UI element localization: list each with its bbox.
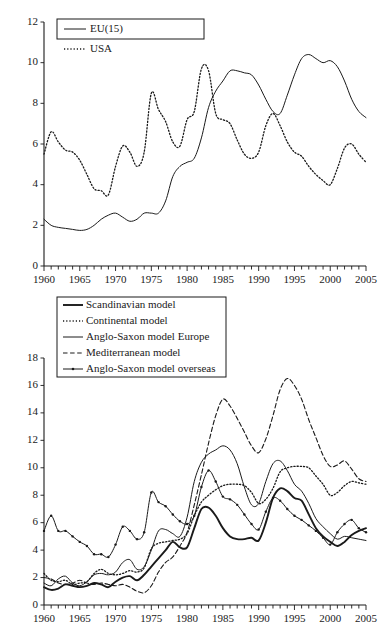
x-tick-label: 1980 (176, 273, 199, 285)
x-tick-label: 2005 (355, 273, 378, 285)
figure-container: 0246810121960196519701975198019851990199… (0, 0, 380, 629)
series-marker (93, 553, 95, 555)
series-line (44, 470, 366, 557)
x-tick-label: 1975 (140, 612, 163, 624)
x-tick-label: 1965 (69, 273, 92, 285)
chart-bottom-svg: 0246810121416181960196519701975198019851… (0, 290, 380, 629)
series-line (44, 379, 366, 593)
series-marker (286, 508, 288, 510)
x-tick-label: 1980 (176, 612, 199, 624)
legend-label: EU(15) (90, 22, 123, 35)
x-tick-label: 1965 (69, 612, 92, 624)
y-tick-label: 4 (33, 543, 39, 555)
series-marker (265, 510, 267, 512)
series-marker (222, 495, 224, 497)
series-marker (207, 469, 209, 471)
series-marker (329, 543, 331, 545)
series-marker (129, 530, 131, 532)
series-marker (107, 556, 109, 558)
series-marker (293, 515, 295, 517)
series-marker (365, 531, 367, 533)
chart-panel-top: 0246810121960196519701975198019851990199… (0, 0, 380, 290)
series-marker (86, 545, 88, 547)
series-marker (64, 530, 66, 532)
series-marker (215, 480, 217, 482)
series-marker (279, 500, 281, 502)
series-marker (79, 541, 81, 543)
series-marker (186, 523, 188, 525)
x-tick-label: 1990 (248, 273, 271, 285)
y-tick-label: 8 (33, 96, 39, 108)
series-marker (308, 524, 310, 526)
y-tick-label: 16 (27, 378, 39, 390)
series-marker (336, 531, 338, 533)
series-marker (71, 535, 73, 537)
legend-label: Continental model (86, 314, 168, 326)
series-line (44, 64, 366, 196)
x-tick-label: 1960 (33, 612, 56, 624)
series-marker (57, 530, 59, 532)
x-tick-label: 1985 (212, 273, 235, 285)
x-tick-label: 2005 (355, 612, 378, 624)
x-tick-label: 1960 (33, 273, 56, 285)
series-marker (43, 530, 45, 532)
series-marker (322, 537, 324, 539)
series-marker (114, 543, 116, 545)
legend-label: Anglo-Saxon model overseas (86, 362, 216, 374)
series-marker (164, 505, 166, 507)
series-marker (272, 497, 274, 499)
series-marker (172, 513, 174, 515)
legend-marker-sample (72, 368, 75, 371)
y-tick-label: 10 (27, 55, 39, 67)
x-tick-label: 1970 (105, 612, 128, 624)
y-tick-label: 10 (27, 460, 39, 472)
series-marker (243, 513, 245, 515)
x-tick-label: 1995 (283, 612, 306, 624)
y-tick-label: 4 (33, 177, 39, 189)
series-marker (122, 526, 124, 528)
series-marker (250, 523, 252, 525)
series-marker (50, 515, 52, 517)
x-tick-label: 2000 (319, 273, 342, 285)
x-tick-label: 1990 (248, 612, 271, 624)
legend-label: Anglo-Saxon model Europe (86, 330, 210, 342)
series-marker (179, 520, 181, 522)
y-tick-label: 12 (27, 433, 38, 445)
series-marker (143, 531, 145, 533)
series-marker (136, 538, 138, 540)
y-tick-label: 18 (27, 351, 39, 363)
x-tick-label: 1995 (283, 273, 306, 285)
y-tick-label: 2 (33, 570, 39, 582)
x-tick-label: 1975 (140, 273, 163, 285)
series-marker (200, 486, 202, 488)
series-line (44, 55, 366, 231)
series-line (44, 488, 366, 590)
series-marker (257, 528, 259, 530)
series-marker (193, 515, 195, 517)
series-marker (236, 504, 238, 506)
y-tick-label: 8 (33, 488, 39, 500)
series-marker (300, 519, 302, 521)
series-marker (150, 491, 152, 493)
series-marker (315, 530, 317, 532)
y-tick-label: 12 (27, 15, 38, 27)
series-line (44, 466, 366, 584)
x-tick-label: 1970 (105, 273, 128, 285)
x-tick-label: 2000 (319, 612, 342, 624)
series-marker (100, 553, 102, 555)
series-marker (358, 527, 360, 529)
y-tick-label: 14 (27, 405, 39, 417)
legend-label: USA (90, 42, 112, 54)
legend-label: Mediterranean model (86, 346, 180, 358)
chart-panel-bottom: 0246810121416181960196519701975198019851… (0, 290, 380, 629)
series-line (44, 446, 366, 586)
y-tick-label: 2 (33, 218, 39, 230)
y-tick-label: 0 (33, 598, 39, 610)
x-tick-label: 1985 (212, 612, 235, 624)
series-marker (343, 523, 345, 525)
chart-top-svg: 0246810121960196519701975198019851990199… (0, 0, 380, 290)
series-marker (350, 519, 352, 521)
y-tick-label: 0 (33, 259, 39, 271)
series-marker (157, 501, 159, 503)
series-marker (229, 498, 231, 500)
